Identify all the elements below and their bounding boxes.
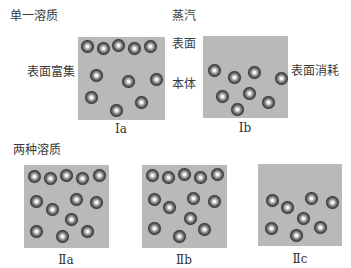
- solute-molecule-icon: [93, 169, 106, 182]
- solute-molecule-icon: [178, 168, 191, 181]
- solute-molecule-icon: [243, 87, 256, 100]
- solute-molecule-icon: [231, 103, 244, 116]
- surface-label: 表面: [172, 37, 196, 51]
- solute-molecule-icon: [326, 196, 339, 209]
- solute-molecule-icon: [81, 225, 94, 238]
- panel-Ib-caption: Ⅰb: [225, 121, 265, 135]
- solute-molecule-icon: [81, 40, 94, 53]
- solute-molecule-icon: [122, 75, 135, 88]
- solute-molecule-icon: [248, 66, 261, 79]
- solute-molecule-icon: [194, 171, 207, 184]
- solute-molecule-icon: [30, 195, 43, 208]
- solute-molecule-icon: [135, 96, 148, 109]
- surface-depleted-label: 表面消耗: [291, 64, 339, 78]
- solute-molecule-icon: [90, 69, 103, 82]
- solute-molecule-icon: [150, 73, 163, 86]
- solute-molecule-icon: [90, 196, 103, 209]
- solute-molecule-icon: [266, 194, 279, 207]
- solute-molecule-icon: [70, 193, 83, 206]
- vapor-label: 蒸汽: [172, 9, 196, 23]
- solute-molecule-icon: [208, 64, 221, 77]
- single-solute-title: 单一溶质: [10, 9, 58, 23]
- solute-molecule-icon: [173, 230, 186, 243]
- solute-molecule-icon: [275, 72, 288, 85]
- solute-molecule-icon: [305, 192, 318, 205]
- solute-molecule-icon: [314, 221, 327, 234]
- two-solutes-title: 两种溶质: [13, 143, 61, 157]
- solute-molecule-icon: [163, 201, 176, 214]
- solute-molecule-icon: [46, 203, 59, 216]
- panel-IIb-caption: Ⅱb: [164, 253, 204, 267]
- solute-molecule-icon: [290, 229, 303, 242]
- solute-molecule-icon: [162, 171, 175, 184]
- solute-molecule-icon: [146, 169, 159, 182]
- solute-molecule-icon: [148, 193, 161, 206]
- solute-molecule-icon: [198, 223, 211, 236]
- solute-molecule-icon: [187, 192, 200, 205]
- solute-molecule-icon: [297, 212, 310, 225]
- solute-molecule-icon: [144, 40, 157, 53]
- solute-molecule-icon: [65, 213, 78, 226]
- surface-enriched-label: 表面富集: [27, 65, 75, 79]
- solute-molecule-icon: [56, 230, 69, 243]
- solute-molecule-icon: [228, 71, 241, 84]
- solute-molecule-icon: [262, 96, 275, 109]
- panel-IIc-caption: Ⅱc: [280, 252, 320, 266]
- solute-molecule-icon: [265, 222, 278, 235]
- solute-molecule-icon: [211, 168, 224, 181]
- solute-molecule-icon: [85, 91, 98, 104]
- solute-molecule-icon: [208, 195, 221, 208]
- solute-molecule-icon: [60, 169, 73, 182]
- solute-molecule-icon: [97, 42, 110, 55]
- solute-molecule-icon: [128, 42, 141, 55]
- solute-molecule-icon: [30, 225, 43, 238]
- solute-molecule-icon: [28, 170, 41, 183]
- solute-molecule-icon: [216, 90, 229, 103]
- panel-Ia-caption: Ⅰa: [101, 122, 141, 136]
- solute-molecule-icon: [44, 172, 57, 185]
- solute-molecule-icon: [148, 222, 161, 235]
- solute-molecule-icon: [112, 39, 125, 52]
- solute-molecule-icon: [76, 172, 89, 185]
- bulk-label: 本体: [172, 77, 196, 91]
- solute-molecule-icon: [110, 104, 123, 117]
- solute-molecule-icon: [281, 201, 294, 214]
- panel-IIa-caption: Ⅱa: [46, 253, 86, 267]
- solute-molecule-icon: [184, 212, 197, 225]
